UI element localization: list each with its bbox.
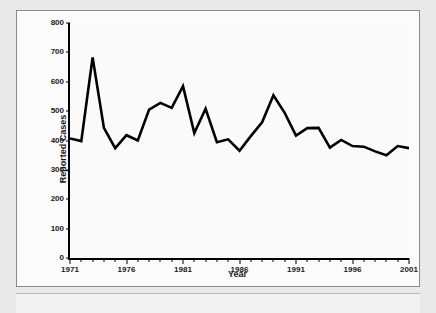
x-tick-mark (284, 258, 285, 262)
y-tick-label: 0 (60, 254, 64, 262)
page-bottom-strip (16, 293, 420, 313)
x-tick-mark (194, 258, 195, 262)
x-tick-mark (81, 258, 82, 262)
x-tick-mark (296, 258, 297, 264)
plot-area: 0100200300400500600700800 19711976198119… (68, 23, 409, 260)
y-tick-mark (66, 228, 70, 229)
x-tick-mark (386, 258, 387, 262)
x-tick-mark (103, 258, 104, 262)
x-tick-mark (171, 258, 172, 262)
x-tick-mark (115, 258, 116, 262)
y-tick-mark (66, 52, 70, 53)
y-tick-label: 600 (51, 78, 64, 86)
x-tick-mark (262, 258, 263, 262)
y-tick-label: 400 (51, 137, 64, 145)
x-axis-title: Year (68, 269, 407, 279)
x-tick-mark (273, 258, 274, 262)
x-tick-mark (92, 258, 93, 262)
x-tick-mark (363, 258, 364, 262)
y-tick-label: 200 (51, 195, 64, 203)
x-tick-mark (239, 258, 240, 264)
x-tick-mark (183, 258, 184, 264)
y-tick-mark (66, 199, 70, 200)
chart-page: Reported Cases 0100200300400500600700800… (0, 0, 436, 313)
x-tick-mark (70, 258, 71, 264)
line-series (70, 23, 409, 258)
y-tick-label: 700 (51, 48, 64, 56)
x-tick-mark (228, 258, 229, 262)
x-tick-mark (216, 258, 217, 262)
y-tick-label: 800 (51, 19, 64, 27)
x-tick-mark (205, 258, 206, 262)
figure-panel: Reported Cases 0100200300400500600700800… (16, 10, 420, 287)
x-tick-mark (329, 258, 330, 262)
y-tick-mark (66, 169, 70, 170)
y-tick-label: 100 (51, 225, 64, 233)
x-tick-mark (137, 258, 138, 262)
x-tick-mark (352, 258, 353, 264)
x-tick-mark (307, 258, 308, 262)
y-tick-label: 300 (51, 166, 64, 174)
x-tick-mark (409, 258, 410, 264)
x-tick-mark (375, 258, 376, 262)
y-tick-mark (66, 140, 70, 141)
y-tick-mark (66, 111, 70, 112)
y-tick-mark (66, 23, 70, 24)
y-tick-mark (66, 81, 70, 82)
x-tick-mark (341, 258, 342, 262)
x-tick-mark (397, 258, 398, 262)
x-tick-mark (126, 258, 127, 264)
x-tick-mark (250, 258, 251, 262)
x-tick-mark (149, 258, 150, 262)
x-tick-mark (318, 258, 319, 262)
x-tick-mark (160, 258, 161, 262)
y-tick-label: 500 (51, 107, 64, 115)
